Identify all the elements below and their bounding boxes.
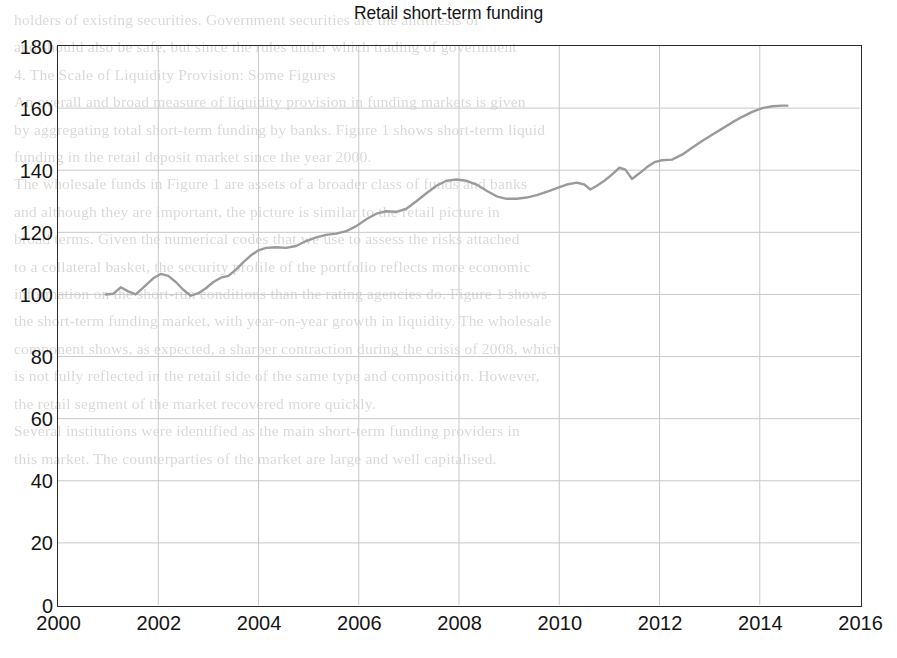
- x-tick-label: 2014: [715, 612, 805, 635]
- y-tick-label: 100: [7, 284, 53, 307]
- data-series-group: [106, 106, 788, 296]
- grid-lines: [58, 46, 860, 605]
- y-tick-label: 0: [7, 594, 53, 617]
- plot-canvas: [58, 46, 860, 605]
- x-tick-label: 2004: [214, 612, 304, 635]
- x-tick-label: 2008: [415, 612, 505, 635]
- y-tick-label: 40: [7, 470, 53, 493]
- plot-area-frame: [57, 45, 862, 607]
- y-tick-label: 60: [7, 408, 53, 431]
- y-tick-label: 120: [7, 221, 53, 244]
- data-series-line: [106, 106, 788, 296]
- y-axis-tick-labels: 020406080100120140160180: [0, 0, 53, 658]
- y-tick-label: 160: [7, 97, 53, 120]
- x-tick-label: 2000: [14, 612, 104, 635]
- x-tick-label: 2006: [314, 612, 404, 635]
- y-tick-label: 80: [7, 346, 53, 369]
- y-tick-label: 20: [7, 532, 53, 555]
- x-tick-label: 2002: [114, 612, 204, 635]
- chart-title: Retail short-term funding: [0, 3, 897, 24]
- y-tick-label: 140: [7, 159, 53, 182]
- x-tick-label: 2016: [816, 612, 897, 635]
- x-tick-label: 2010: [515, 612, 605, 635]
- x-tick-label: 2012: [615, 612, 705, 635]
- y-tick-label: 180: [7, 35, 53, 58]
- chart-figure: Retail short-term funding 02040608010012…: [0, 0, 897, 658]
